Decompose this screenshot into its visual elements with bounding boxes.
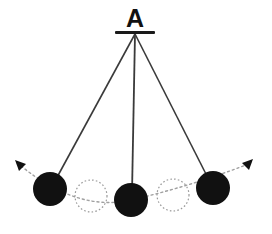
diagram-canvas: A — [0, 0, 272, 234]
pendulum-diagram: A — [0, 0, 272, 234]
pendulum-bob-left-extreme — [33, 172, 67, 206]
pendulum-bob-right-extreme — [196, 171, 230, 205]
pivot-label: A — [126, 4, 144, 32]
pendulum-bob-center-equilibrium — [114, 183, 148, 217]
